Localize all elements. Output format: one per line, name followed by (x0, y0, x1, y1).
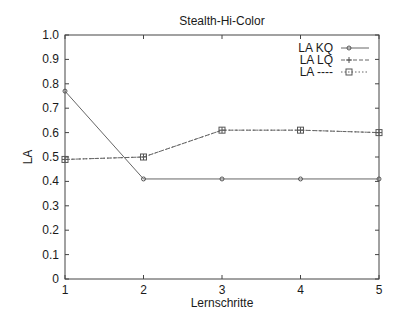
data-series (62, 89, 382, 181)
x-tick-label: 5 (376, 283, 383, 297)
y-tick-label: 0.6 (42, 126, 59, 140)
y-axis-label: LA (21, 150, 35, 165)
x-tick-label: 3 (219, 283, 226, 297)
series-1 (62, 127, 382, 162)
y-tick-label: 1.0 (42, 28, 59, 42)
y-tick-label: 0.2 (42, 223, 59, 237)
y-tick-label: 0.5 (42, 150, 59, 164)
y-tick-label: 0.9 (42, 52, 59, 66)
x-tick-label: 2 (140, 283, 147, 297)
y-tick-label: 0.3 (42, 199, 59, 213)
x-axis-label: Lernschritte (191, 296, 254, 310)
x-tick-label: 4 (297, 283, 304, 297)
line-chart: Stealth-Hi-Color 00.10.20.30.40.50.60.70… (0, 0, 401, 327)
x-axis: 12345 (62, 35, 383, 297)
legend: LA KQ LA LQ LA ---- (298, 41, 369, 79)
y-tick-label: 0.8 (42, 77, 59, 91)
legend-label-la: LA ---- (300, 65, 333, 79)
series-line (65, 130, 379, 159)
y-tick-label: 0.1 (42, 248, 59, 262)
x-tick-label: 1 (62, 283, 69, 297)
chart-title: Stealth-Hi-Color (179, 14, 264, 28)
series-line (65, 130, 379, 159)
y-tick-label: 0.4 (42, 174, 59, 188)
y-tick-label: 0.7 (42, 101, 59, 115)
series-line (65, 91, 379, 179)
series-0 (63, 89, 381, 181)
y-tick-label: 0 (52, 272, 59, 286)
